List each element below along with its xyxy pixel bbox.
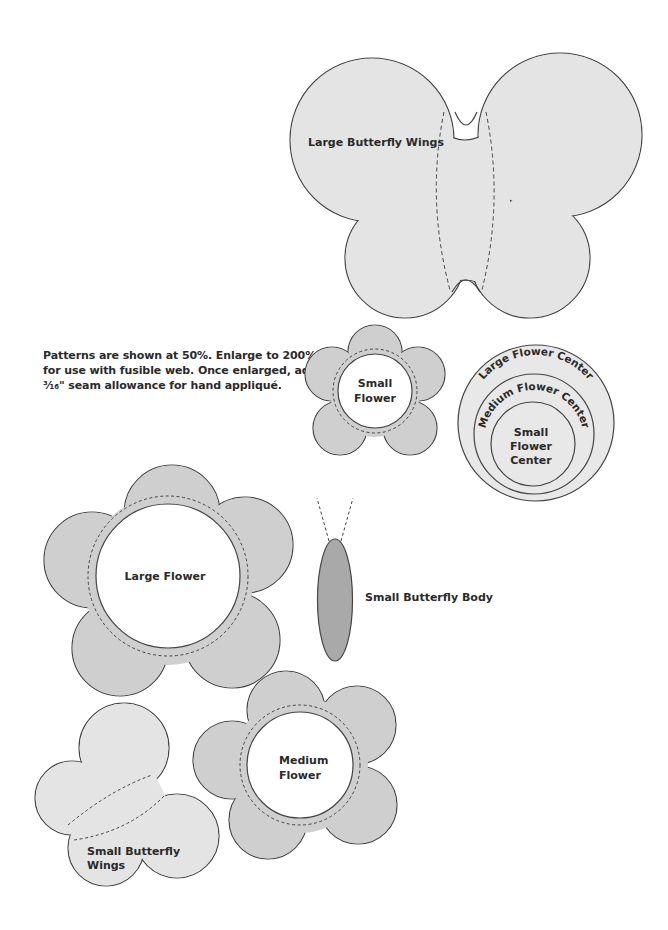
small-butterfly-body-label: Small Butterfly Body	[365, 591, 493, 604]
flower-centers-pattern: Large Flower Center Medium Flower Center…	[458, 345, 614, 501]
butterfly-body-shape	[318, 539, 353, 661]
large-butterfly-wings-pattern: Large Butterfly Wings	[290, 53, 642, 318]
small-flower-label-2: Flower	[354, 392, 396, 405]
small-flower-center-label-1: Small	[514, 426, 548, 439]
medium-flower-label-1: Medium	[279, 754, 328, 767]
small-flower-center-label-2: Flower	[510, 440, 552, 453]
small-butterfly-wings-label-1: Small Butterfly	[87, 845, 180, 858]
large-flower-label: Large Flower	[125, 570, 206, 583]
large-butterfly-wings-label: Large Butterfly Wings	[308, 136, 444, 149]
small-flower-center-cutout	[338, 354, 412, 428]
antennae-lines	[317, 498, 353, 541]
small-flower-label-1: Small	[358, 377, 392, 390]
small-butterfly-wings-pattern: Small Butterfly Wings	[35, 703, 219, 886]
small-flower-center-label-3: Center	[510, 454, 552, 467]
medium-flower-pattern: Medium Flower	[193, 671, 397, 859]
small-flower-pattern: Small Flower	[305, 325, 445, 455]
medium-flower-label-2: Flower	[279, 769, 321, 782]
small-butterfly-wings-label-2: Wings	[87, 859, 126, 872]
small-butterfly-body-pattern: Small Butterfly Body	[317, 498, 493, 661]
large-flower-pattern: Large Flower	[44, 465, 293, 696]
